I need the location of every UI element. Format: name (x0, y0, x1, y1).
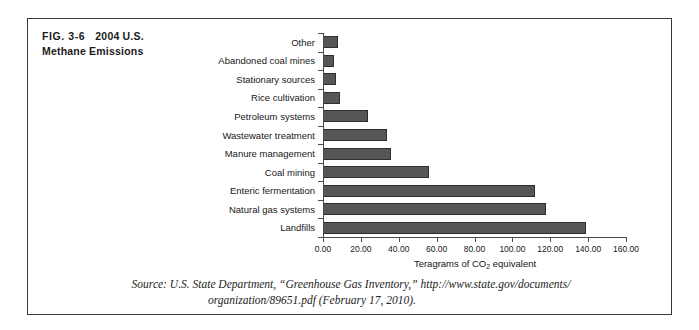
bar (323, 92, 340, 104)
category-label: Petroleum systems (178, 107, 321, 126)
bar-row (323, 73, 336, 85)
category-label: Rice cultivation (178, 89, 321, 108)
category-label: Coal mining (178, 163, 321, 182)
bar-row (323, 166, 429, 178)
source-line-1: Source: U.S. State Department, “Greenhou… (132, 278, 571, 290)
y-axis-tick (318, 107, 323, 108)
bar-row (323, 148, 391, 160)
y-axis-tick (318, 89, 323, 90)
category-label: Stationary sources (178, 70, 321, 89)
y-axis-tick (318, 200, 323, 201)
bar-row (323, 92, 340, 104)
category-label: Other (178, 33, 321, 52)
x-axis-tick (550, 237, 551, 242)
y-axis-tick (318, 218, 323, 219)
bar-row (323, 129, 387, 141)
x-axis-tick-label: 140.00 (575, 244, 601, 254)
x-axis-tick (361, 237, 362, 242)
x-axis-tick (323, 237, 324, 242)
bar-series (323, 33, 626, 237)
source-note: Source: U.S. State Department, “Greenhou… (56, 277, 646, 308)
bar (323, 73, 336, 85)
y-axis-tick (318, 144, 323, 145)
chart-plot-area: OtherAbandoned coal minesStationary sour… (28, 19, 673, 316)
x-axis-title: Teragrams of CO2 equivalent (323, 258, 627, 269)
source-line-2: organization/89651.pdf (February 17, 201… (56, 293, 646, 309)
x-axis-tick-label: 80.00 (464, 244, 485, 254)
y-axis-tick (318, 237, 323, 238)
x-axis-tick (626, 237, 627, 242)
x-axis-tick-label: 20.00 (350, 244, 371, 254)
category-axis-labels: OtherAbandoned coal minesStationary sour… (178, 33, 321, 237)
category-label: Enteric fermentation (178, 181, 321, 200)
x-axis-tick-label: 60.00 (426, 244, 447, 254)
bar-row (323, 222, 586, 234)
bar (323, 203, 546, 215)
bar-row (323, 185, 535, 197)
y-axis-tick (318, 181, 323, 182)
bar (323, 55, 334, 67)
x-axis-tick-label: 0.00 (315, 244, 332, 254)
y-axis-tick (318, 70, 323, 71)
bar (323, 222, 586, 234)
bar (323, 148, 391, 160)
x-axis-tick (437, 237, 438, 242)
bar-row (323, 36, 338, 48)
bar (323, 129, 387, 141)
y-axis-tick (318, 33, 323, 34)
bar-row (323, 110, 368, 122)
category-label: Landfills (178, 218, 321, 237)
x-axis-tick-label: 160.00 (613, 244, 639, 254)
y-axis-tick (318, 52, 323, 53)
category-label: Manure management (178, 144, 321, 163)
bar (323, 166, 429, 178)
y-axis-line (323, 33, 324, 237)
figure-frame: FIG. 3-62004 U.S. Methane Emissions Othe… (27, 18, 672, 315)
category-label: Abandoned coal mines (178, 52, 321, 71)
x-axis-tick (475, 237, 476, 242)
x-axis-tick-label: 100.00 (499, 244, 525, 254)
y-axis-tick (318, 126, 323, 127)
category-label: Wastewater treatment (178, 126, 321, 145)
x-axis-tick (399, 237, 400, 242)
bar-row (323, 203, 546, 215)
bar (323, 185, 535, 197)
bar (323, 110, 368, 122)
x-axis-tick-label: 120.00 (537, 244, 563, 254)
bar (323, 36, 338, 48)
category-label: Natural gas systems (178, 200, 321, 219)
x-axis-tick (588, 237, 589, 242)
y-axis-tick (318, 163, 323, 164)
x-axis-tick-label: 40.00 (388, 244, 409, 254)
bar-row (323, 55, 334, 67)
x-axis-tick (512, 237, 513, 242)
